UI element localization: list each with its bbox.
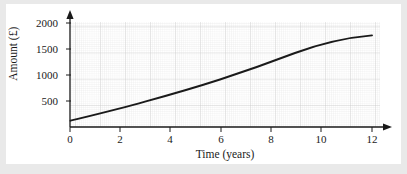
y-tick-label-500: 500 [18,96,58,107]
x-tick-label-0: 0 [55,134,85,145]
y-tick-label-1500: 1500 [18,44,58,55]
x-tick-label-12: 12 [357,134,387,145]
x-tick-label-10: 10 [306,134,336,145]
x-axis-title: Time (years) [160,149,290,161]
x-tick-label-4: 4 [155,134,185,145]
x-tick-label-6: 6 [206,134,236,145]
y-tick-label-2000: 2000 [18,18,58,29]
chart-figure: Amount (£) Time (years) 2000 1500 1000 5… [0,0,407,174]
y-tick-label-1000: 1000 [18,70,58,81]
grid-major [70,22,380,127]
x-tick-label-2: 2 [105,134,135,145]
x-tick-label-8: 8 [256,134,286,145]
x-axis-ticks [70,127,372,132]
